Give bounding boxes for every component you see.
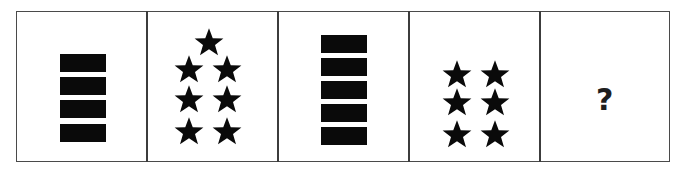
star-icon (174, 54, 204, 84)
star-icon (212, 84, 242, 114)
bar-icon (60, 77, 106, 95)
panel-divider (408, 11, 410, 162)
star-icon (442, 59, 472, 89)
bar-icon (60, 100, 106, 118)
bar-icon (321, 58, 367, 76)
star-icon (174, 84, 204, 114)
star-icon (480, 87, 510, 117)
bar-icon (321, 104, 367, 122)
panel-divider (277, 11, 279, 162)
panel-divider (146, 11, 148, 162)
star-icon (174, 116, 204, 146)
star-icon (442, 87, 472, 117)
star-icon (480, 119, 510, 149)
star-icon (212, 116, 242, 146)
star-icon (194, 27, 224, 57)
bar-icon (321, 81, 367, 99)
star-icon (212, 54, 242, 84)
star-icon (480, 59, 510, 89)
star-icon (442, 119, 472, 149)
bar-icon (60, 54, 106, 72)
panel-divider (539, 11, 541, 162)
bar-icon (321, 35, 367, 53)
question-mark: ? (596, 82, 613, 117)
bar-icon (60, 124, 106, 142)
bar-icon (321, 127, 367, 145)
